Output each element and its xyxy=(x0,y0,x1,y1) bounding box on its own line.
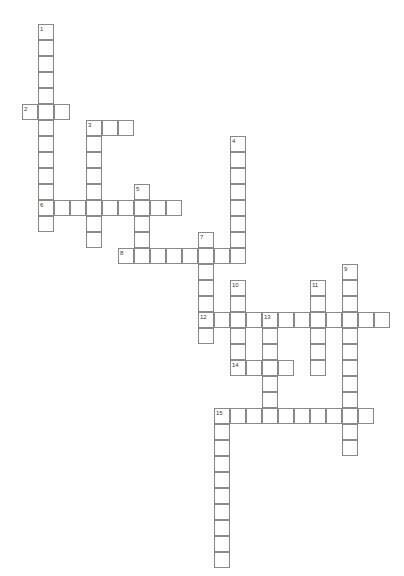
crossword-cell[interactable] xyxy=(102,120,118,136)
crossword-cell[interactable] xyxy=(22,104,38,120)
crossword-cell[interactable] xyxy=(262,312,278,328)
crossword-cell[interactable] xyxy=(54,104,70,120)
crossword-cell[interactable] xyxy=(38,104,54,120)
crossword-cell[interactable] xyxy=(262,408,278,424)
crossword-cell[interactable] xyxy=(198,232,214,248)
crossword-cell[interactable] xyxy=(70,200,86,216)
crossword-cell[interactable] xyxy=(310,344,326,360)
crossword-cell[interactable] xyxy=(262,360,278,376)
crossword-cell[interactable] xyxy=(38,88,54,104)
crossword-cell[interactable] xyxy=(342,424,358,440)
crossword-cell[interactable] xyxy=(118,120,134,136)
crossword-cell[interactable] xyxy=(342,344,358,360)
crossword-cell[interactable] xyxy=(150,200,166,216)
crossword-cell[interactable] xyxy=(342,312,358,328)
crossword-cell[interactable] xyxy=(230,328,246,344)
crossword-cell[interactable] xyxy=(262,376,278,392)
crossword-cell[interactable] xyxy=(342,376,358,392)
crossword-cell[interactable] xyxy=(230,232,246,248)
crossword-cell[interactable] xyxy=(230,200,246,216)
crossword-cell[interactable] xyxy=(214,312,230,328)
crossword-cell[interactable] xyxy=(182,248,198,264)
crossword-cell[interactable] xyxy=(310,312,326,328)
crossword-cell[interactable] xyxy=(86,216,102,232)
crossword-cell[interactable] xyxy=(230,184,246,200)
crossword-cell[interactable] xyxy=(134,216,150,232)
crossword-cell[interactable] xyxy=(294,312,310,328)
crossword-cell[interactable] xyxy=(198,328,214,344)
crossword-cell[interactable] xyxy=(230,408,246,424)
crossword-cell[interactable] xyxy=(86,136,102,152)
crossword-cell[interactable] xyxy=(326,408,342,424)
crossword-cell[interactable] xyxy=(134,184,150,200)
crossword-cell[interactable] xyxy=(358,312,374,328)
crossword-cell[interactable] xyxy=(198,264,214,280)
crossword-cell[interactable] xyxy=(214,248,230,264)
crossword-cell[interactable] xyxy=(38,168,54,184)
crossword-cell[interactable] xyxy=(230,344,246,360)
crossword-cell[interactable] xyxy=(262,344,278,360)
crossword-cell[interactable] xyxy=(342,328,358,344)
crossword-cell[interactable] xyxy=(342,296,358,312)
crossword-cell[interactable] xyxy=(214,440,230,456)
crossword-cell[interactable] xyxy=(246,408,262,424)
crossword-grid[interactable]: 123456789101112131415 xyxy=(0,0,404,576)
crossword-cell[interactable] xyxy=(230,152,246,168)
crossword-cell[interactable] xyxy=(230,216,246,232)
crossword-cell[interactable] xyxy=(230,296,246,312)
crossword-cell[interactable] xyxy=(230,312,246,328)
crossword-cell[interactable] xyxy=(198,248,214,264)
crossword-cell[interactable] xyxy=(38,120,54,136)
crossword-cell[interactable] xyxy=(38,136,54,152)
crossword-cell[interactable] xyxy=(214,408,230,424)
crossword-cell[interactable] xyxy=(310,280,326,296)
crossword-cell[interactable] xyxy=(38,152,54,168)
crossword-cell[interactable] xyxy=(342,408,358,424)
crossword-cell[interactable] xyxy=(262,328,278,344)
crossword-cell[interactable] xyxy=(214,424,230,440)
crossword-cell[interactable] xyxy=(54,200,70,216)
crossword-cell[interactable] xyxy=(86,200,102,216)
crossword-cell[interactable] xyxy=(342,360,358,376)
crossword-cell[interactable] xyxy=(278,408,294,424)
crossword-cell[interactable] xyxy=(86,120,102,136)
crossword-cell[interactable] xyxy=(134,248,150,264)
crossword-cell[interactable] xyxy=(342,280,358,296)
crossword-cell[interactable] xyxy=(214,456,230,472)
crossword-cell[interactable] xyxy=(38,216,54,232)
crossword-cell[interactable] xyxy=(150,248,166,264)
crossword-cell[interactable] xyxy=(214,472,230,488)
crossword-cell[interactable] xyxy=(310,328,326,344)
crossword-cell[interactable] xyxy=(230,360,246,376)
crossword-cell[interactable] xyxy=(342,440,358,456)
crossword-cell[interactable] xyxy=(214,520,230,536)
crossword-cell[interactable] xyxy=(342,392,358,408)
crossword-cell[interactable] xyxy=(198,296,214,312)
crossword-cell[interactable] xyxy=(38,184,54,200)
crossword-cell[interactable] xyxy=(166,200,182,216)
crossword-cell[interactable] xyxy=(86,168,102,184)
crossword-cell[interactable] xyxy=(230,280,246,296)
crossword-cell[interactable] xyxy=(38,24,54,40)
crossword-cell[interactable] xyxy=(230,136,246,152)
crossword-cell[interactable] xyxy=(310,408,326,424)
crossword-cell[interactable] xyxy=(118,200,134,216)
crossword-cell[interactable] xyxy=(374,312,390,328)
crossword-cell[interactable] xyxy=(342,264,358,280)
crossword-cell[interactable] xyxy=(294,408,310,424)
crossword-cell[interactable] xyxy=(86,232,102,248)
crossword-cell[interactable] xyxy=(310,360,326,376)
crossword-cell[interactable] xyxy=(230,248,246,264)
crossword-cell[interactable] xyxy=(246,312,262,328)
crossword-cell[interactable] xyxy=(214,504,230,520)
crossword-cell[interactable] xyxy=(246,360,262,376)
crossword-cell[interactable] xyxy=(86,184,102,200)
crossword-cell[interactable] xyxy=(310,296,326,312)
crossword-cell[interactable] xyxy=(86,152,102,168)
crossword-cell[interactable] xyxy=(118,248,134,264)
crossword-cell[interactable] xyxy=(38,200,54,216)
crossword-cell[interactable] xyxy=(326,312,342,328)
crossword-cell[interactable] xyxy=(214,536,230,552)
crossword-cell[interactable] xyxy=(214,552,230,568)
crossword-cell[interactable] xyxy=(198,280,214,296)
